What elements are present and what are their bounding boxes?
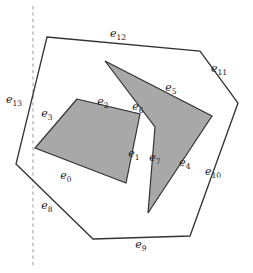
geometry-diagram: e0e1e2e3e4e5e6e7e8e9e10e11e12e13 (0, 0, 253, 273)
figure-canvas: e0e1e2e3e4e5e6e7e8e9e10e11e12e13 (0, 0, 253, 273)
